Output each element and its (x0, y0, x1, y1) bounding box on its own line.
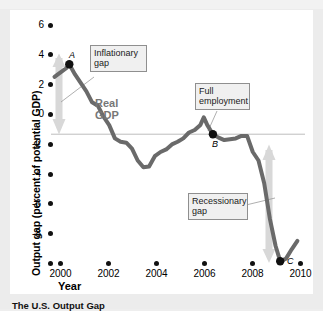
y-tick-label: 4 (22, 49, 44, 60)
figure-caption: The U.S. Output Gap (12, 300, 105, 311)
full-employment-callout: Full employment (195, 83, 250, 110)
output-gap-line-chart (10, 10, 313, 294)
x-tick-dot (154, 261, 159, 266)
x-tick-label: 2010 (281, 268, 321, 279)
y-tick-label: 0 (22, 108, 44, 119)
inflationary-gap-line2: gap (94, 58, 143, 68)
y-tick-label: -6 (19, 198, 41, 209)
x-tick-label: 2002 (89, 268, 129, 279)
chart-plot-area: Output gap (percent of potential GDP) 6 … (10, 10, 313, 294)
y-tick-label: -8 (19, 228, 41, 239)
y-tick-label: -4 (19, 168, 41, 179)
real-gdp-line2: GDP (95, 109, 119, 121)
x-tick-dot (106, 261, 111, 266)
inflationary-gap-arrow (53, 54, 66, 135)
x-axis-origin-dot (48, 261, 53, 266)
full-employment-line2: employment (199, 96, 246, 106)
y-tick-dot (48, 142, 53, 147)
x-tick-dot (202, 261, 207, 266)
x-tick-dot (298, 261, 303, 266)
x-tick-dot (58, 261, 63, 266)
x-tick-dot (250, 261, 255, 266)
inflationary-gap-callout: Inflationary gap (90, 45, 147, 72)
marker-point-c (276, 257, 284, 265)
point-label-b: B (212, 139, 218, 149)
top-band (0, 0, 323, 9)
marker-point-b (209, 130, 217, 138)
chart-card: Output gap (percent of potential GDP) 6 … (10, 10, 313, 294)
marker-point-a (65, 60, 73, 68)
point-label-c: C (287, 256, 294, 266)
real-gdp-series-label: Real GDP (95, 97, 119, 121)
x-tick-label: 2008 (233, 268, 273, 279)
y-tick-label: -2 (19, 138, 41, 149)
x-axis-title: Year (58, 280, 81, 292)
y-tick-dot (48, 112, 53, 117)
real-gdp-line1: Real (95, 97, 119, 109)
point-label-a: A (69, 50, 75, 60)
y-tick-dot (48, 172, 53, 177)
recessionary-gap-line2: gap (192, 206, 244, 216)
real-gdp-curve (55, 64, 298, 261)
inflationary-gap-line1: Inflationary (94, 48, 143, 58)
recessionary-gap-callout: Recessionary gap (188, 193, 248, 220)
full-employment-line1: Full (199, 86, 246, 96)
x-tick-label: 2000 (41, 268, 81, 279)
y-tick-label: 2 (22, 79, 44, 90)
x-tick-label: 2004 (137, 268, 177, 279)
y-tick-label: 6 (22, 19, 44, 30)
y-tick-dot (48, 23, 53, 28)
x-tick-label: 2006 (185, 268, 225, 279)
recessionary-gap-line1: Recessionary (192, 196, 244, 206)
